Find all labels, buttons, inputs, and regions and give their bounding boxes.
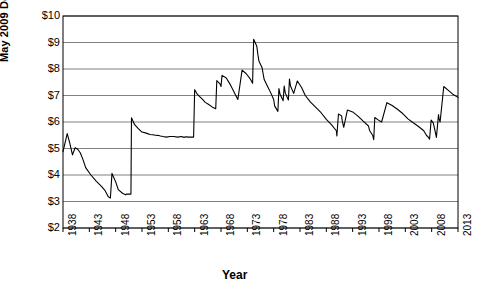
x-tick-label: 1943 bbox=[93, 214, 104, 236]
x-tick-label: 1958 bbox=[172, 214, 183, 236]
x-axis-title: Year bbox=[222, 268, 247, 282]
x-tick-label: 2013 bbox=[462, 214, 473, 236]
x-tick-label: 1998 bbox=[383, 214, 394, 236]
x-tick-label: 1983 bbox=[304, 214, 315, 236]
x-tick-label: 1988 bbox=[330, 214, 341, 236]
x-tick-label: 1968 bbox=[225, 214, 236, 236]
x-tick-label: 1963 bbox=[199, 214, 210, 236]
x-tick-label: 2008 bbox=[436, 214, 447, 236]
chart-figure: May 2009 Dollars $10$9$8$7$6$5$4$3$2 193… bbox=[0, 0, 477, 296]
x-tick-label: 1978 bbox=[278, 214, 289, 236]
x-tick-label: 1973 bbox=[251, 214, 262, 236]
x-tick-label: 1938 bbox=[67, 214, 78, 236]
x-tick-label: 1953 bbox=[146, 214, 157, 236]
x-tick-label: 1993 bbox=[357, 214, 368, 236]
x-tick-label: 2003 bbox=[409, 214, 420, 236]
x-tick-labels-group: 1938194319481953195819631968197319781983… bbox=[0, 0, 477, 296]
x-tick-label: 1948 bbox=[120, 214, 131, 236]
